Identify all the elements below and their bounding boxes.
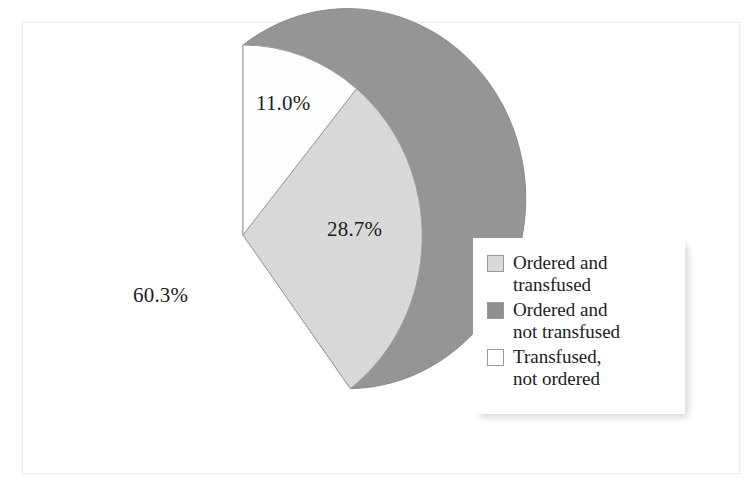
legend-label-line1: Ordered and	[513, 252, 607, 274]
legend-label-transfused-not-ordered: Transfused, not ordered	[513, 346, 602, 390]
legend-swatch-icon-ordered-and-not-transfused	[487, 302, 504, 319]
pie-label-transfused-not-ordered: 11.0%	[256, 93, 310, 114]
legend-label-line1: Transfused,	[513, 346, 602, 368]
legend-label-line1: Ordered and	[513, 299, 620, 321]
pie-label-ordered-and-not-transfused: 60.3%	[133, 285, 188, 306]
legend-label-line2: transfused	[513, 274, 607, 296]
legend-swatch-icon-transfused-not-ordered	[487, 349, 504, 366]
legend-item-ordered-and-not-transfused[interactable]: Ordered and not transfused	[487, 299, 675, 343]
legend-item-ordered-and-transfused[interactable]: Ordered and transfused	[487, 252, 675, 296]
legend-label-ordered-and-transfused: Ordered and transfused	[513, 252, 607, 296]
legend-label-line2: not transfused	[513, 321, 620, 343]
pie-label-ordered-and-transfused: 28.7%	[327, 219, 382, 240]
legend-label-line2: not ordered	[513, 368, 602, 390]
legend-swatch-icon-ordered-and-transfused	[487, 255, 504, 272]
legend-label-ordered-and-not-transfused: Ordered and not transfused	[513, 299, 620, 343]
legend-item-transfused-not-ordered[interactable]: Transfused, not ordered	[487, 346, 675, 390]
chart-legend: Ordered and transfused Ordered and not t…	[473, 238, 685, 414]
